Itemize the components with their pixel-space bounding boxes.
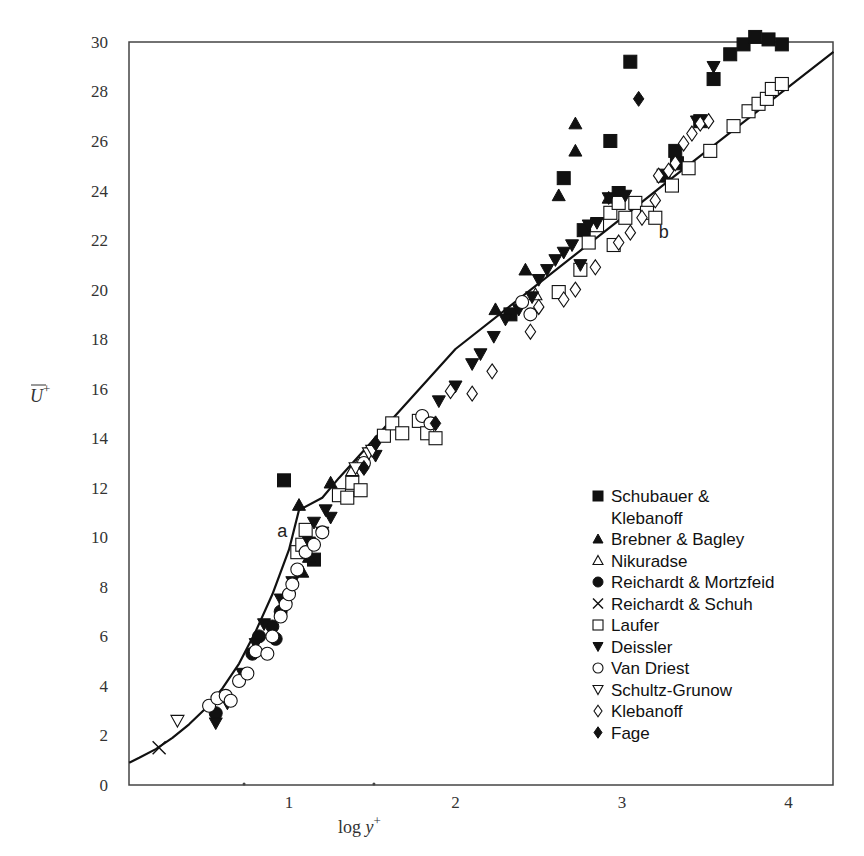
data-point-marker: [727, 120, 740, 133]
law-of-wall-chart: 024681012141618202224262830 1234 ab U+ l…: [0, 0, 864, 856]
data-point-marker: [633, 91, 643, 106]
data-point-marker: [570, 282, 580, 297]
y-tick-label: 28: [91, 82, 108, 101]
x-axis-minor-tick: [372, 783, 375, 786]
data-point-marker: [429, 432, 442, 445]
series-reichardt-schuh: [153, 741, 166, 754]
series-brebner-bagley: [292, 117, 615, 577]
data-point-marker: [682, 162, 695, 175]
y-tick-label: 18: [91, 330, 108, 349]
data-point-marker: [590, 260, 600, 275]
legend-label: Deissler: [611, 638, 673, 657]
data-point-marker: [467, 386, 477, 401]
data-point-marker: [341, 491, 354, 504]
data-point-marker: [274, 610, 287, 623]
data-point-marker: [354, 484, 367, 497]
legend-label: Schubauer &: [611, 487, 710, 506]
x-axis-title: log y+: [338, 813, 381, 837]
legend-label: Reichardt & Mortzfeid: [611, 573, 774, 592]
data-point-marker: [687, 126, 697, 141]
y-tick-label: 26: [91, 132, 108, 151]
data-point-marker: [619, 211, 632, 224]
legend-marker-icon: [593, 599, 603, 609]
data-point-marker: [324, 512, 337, 524]
data-point-marker: [241, 667, 254, 680]
legend-marker-icon: [593, 686, 603, 695]
legend-item: Deissler: [593, 638, 673, 657]
data-point-marker: [266, 630, 279, 643]
legend-label: Van Driest: [611, 659, 689, 678]
y-tick-label: 2: [100, 726, 109, 745]
data-point-marker: [307, 538, 320, 551]
data-point-marker: [209, 718, 222, 730]
data-point-marker: [665, 179, 678, 192]
data-point-marker: [153, 741, 166, 754]
data-point-marker: [466, 359, 479, 371]
y-tick-label: 20: [91, 281, 108, 300]
data-point-marker: [516, 295, 529, 308]
legend-item: Klebanoff: [594, 702, 683, 721]
y-tick-label: 6: [100, 627, 109, 646]
legend-marker-icon: [593, 643, 603, 652]
legend-label: Schultz-Grunow: [611, 681, 733, 700]
y-tick-label: 8: [100, 578, 109, 597]
data-point-marker: [625, 225, 635, 240]
x-axis-title-sup: +: [374, 813, 381, 828]
data-point-marker: [704, 144, 717, 157]
legend-item: Van Driest: [593, 659, 689, 678]
y-tick-label: 22: [91, 231, 108, 250]
legend-item: Reichardt & Schuh: [593, 595, 753, 614]
legend-item: Reichardt & Mortzfeid: [593, 573, 774, 592]
data-point-marker: [749, 30, 762, 43]
plot-frame: [129, 42, 833, 785]
data-point-marker: [278, 474, 291, 487]
data-point-marker: [707, 73, 720, 86]
data-point-marker: [525, 324, 535, 339]
data-point-marker: [224, 694, 237, 707]
legend-marker-icon: [593, 577, 603, 587]
y-tick-label: 14: [91, 429, 109, 448]
data-point-marker: [286, 578, 299, 591]
series-fage: [359, 91, 644, 475]
x-tick-label: 4: [784, 793, 793, 812]
x-axis-title-main: log: [338, 817, 366, 837]
data-point-marker: [489, 303, 502, 315]
legend-item: Laufer: [593, 616, 660, 635]
data-point-marker: [396, 427, 409, 440]
data-point-marker: [629, 196, 642, 209]
y-tick-label: 30: [91, 33, 108, 52]
y-tick-label: 4: [100, 677, 109, 696]
legend-item: Brebner & Bagley: [593, 530, 745, 549]
x-tick-label: 2: [451, 793, 460, 812]
data-point-marker: [292, 499, 305, 511]
y-tick-label: 16: [91, 380, 108, 399]
y-tick-label: 0: [100, 776, 109, 795]
legend-marker-icon: [593, 556, 603, 565]
legend-label: Nikuradse: [611, 552, 688, 571]
legend: Schubauer &KlebanoffBrebner & BagleyNiku…: [593, 487, 774, 743]
data-point-marker: [261, 647, 274, 660]
legend-marker-icon: [593, 534, 603, 543]
y-tick-label: 24: [91, 182, 109, 201]
legend-marker-icon: [593, 491, 603, 501]
data-point-marker: [519, 263, 532, 275]
data-point-marker: [487, 331, 500, 343]
series-laufer: [291, 78, 789, 559]
data-point-marker: [775, 78, 788, 91]
legend-label: Brebner & Bagley: [611, 530, 745, 549]
y-axis-tick-labels: 024681012141618202224262830: [91, 33, 109, 795]
y-tick-label: 10: [91, 528, 108, 547]
y-axis-title-var: U: [30, 386, 44, 406]
data-point-marker: [299, 523, 312, 536]
data-point-marker: [249, 645, 262, 658]
legend-label: Laufer: [611, 616, 660, 635]
x-axis-title-var: y: [364, 817, 374, 837]
legend-marker-icon: [593, 663, 603, 673]
annotation-a: a: [277, 521, 288, 541]
data-point-marker: [557, 172, 570, 185]
annotation-b: b: [659, 222, 669, 242]
data-point-marker: [762, 33, 775, 46]
theory-curve: [129, 52, 833, 763]
legend-label: Klebanoff: [611, 702, 683, 721]
legend-label: Fage: [611, 724, 650, 743]
